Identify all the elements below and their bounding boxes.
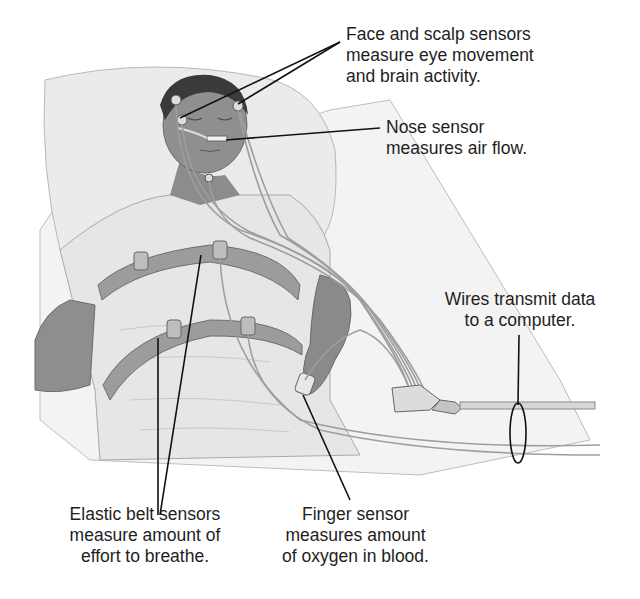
- label-line: measure eye movement: [346, 45, 534, 66]
- label-face-scalp-sensors: Face and scalp sensors measure eye movem…: [346, 24, 534, 87]
- label-line: and brain activity.: [346, 66, 534, 87]
- label-line: measure amount of: [40, 525, 250, 546]
- label-line: Finger sensor: [258, 504, 453, 525]
- label-elastic-belt-sensors: Elastic belt sensors measure amount of e…: [40, 504, 250, 567]
- label-wires: Wires transmit data to a computer.: [430, 289, 610, 331]
- label-line: of oxygen in blood.: [258, 546, 453, 567]
- label-finger-sensor: Finger sensor measures amount of oxygen …: [258, 504, 453, 567]
- label-line: effort to breathe.: [40, 546, 250, 567]
- label-line: measures air flow.: [386, 138, 527, 159]
- label-line: Elastic belt sensors: [40, 504, 250, 525]
- label-nose-sensor: Nose sensor measures air flow.: [386, 117, 527, 159]
- label-line: Face and scalp sensors: [346, 24, 534, 45]
- label-line: Nose sensor: [386, 117, 527, 138]
- label-line: measures amount: [258, 525, 453, 546]
- label-line: to a computer.: [430, 310, 610, 331]
- label-line: Wires transmit data: [430, 289, 610, 310]
